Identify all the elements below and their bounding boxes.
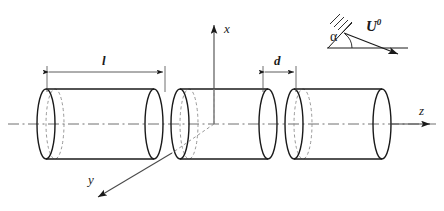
dimension-gap	[263, 66, 296, 92]
axis-z-label: z	[419, 104, 424, 117]
flow-vector-symbol: U	[366, 18, 377, 34]
flow-vector	[344, 33, 398, 54]
flow-vector-superscript: 0	[377, 17, 382, 27]
dimension-gap-label: d	[274, 54, 281, 67]
dimension-length	[47, 66, 165, 92]
axis-y-label: y	[88, 173, 94, 186]
flow-vector-label: U0	[366, 18, 381, 34]
dimension-length-label: l	[102, 54, 106, 67]
figure-canvas: x y z l d α U0	[0, 0, 444, 211]
axis-x-label: x	[224, 22, 230, 35]
angle-alpha-label: α	[330, 30, 337, 44]
axis-y	[98, 124, 214, 197]
